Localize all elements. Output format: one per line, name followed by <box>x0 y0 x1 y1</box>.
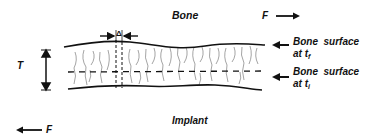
surface-tf-line1: Bone surface <box>293 36 359 48</box>
force-arrow-left-icon <box>16 127 42 134</box>
thickness-label: T <box>17 60 23 72</box>
surface-tf-subscript: f <box>308 53 310 60</box>
surface-tf-label: Bone surface at tf <box>293 36 359 63</box>
displacement-reference-lines <box>116 40 122 88</box>
surface-ti-line2: at ti <box>293 78 359 93</box>
bone-tissue-hatching <box>74 46 258 85</box>
force-arrow-right-icon <box>276 13 300 20</box>
bone-surface-ti-line <box>68 71 262 72</box>
surface-ti-line1: Bone surface <box>293 66 359 78</box>
implant-surface-line <box>68 85 262 90</box>
force-bottom-label: F <box>46 124 52 136</box>
surface-tf-pointer-icon <box>272 41 289 49</box>
delta-label: Δ <box>116 28 122 40</box>
force-top-label: F <box>262 10 268 22</box>
surface-ti-subscript: i <box>308 83 310 90</box>
implant-region-label: Implant <box>172 115 208 127</box>
surface-ti-prefix: at t <box>293 78 308 89</box>
thickness-arrow <box>41 50 51 90</box>
bone-region-label: Bone <box>172 9 198 21</box>
surface-tf-prefix: at t <box>293 48 308 59</box>
bone-surface-tf-line <box>64 41 265 48</box>
surface-ti-label: Bone surface at ti <box>293 66 359 93</box>
surface-ti-pointer-icon <box>272 73 289 81</box>
surface-tf-line2: at tf <box>293 48 359 63</box>
